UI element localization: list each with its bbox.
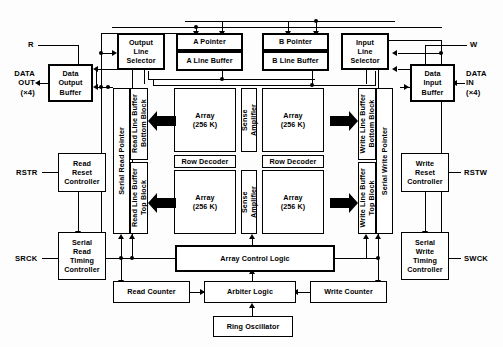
- block-data-input-buffer[interactable]: Data Input Buffer: [410, 64, 455, 102]
- block-sense-amplifier-top-label: Sense Amplifier: [240, 104, 259, 136]
- wire-right-trunk-top: [386, 40, 442, 41]
- block-write-line-buffer-bottom-label: Write Line Buffer Bottom Block: [358, 94, 377, 153]
- block-sense-amplifier-bottom[interactable]: Sense Amplifier: [241, 170, 257, 234]
- block-data-output-buffer[interactable]: Data Output Buffer: [48, 64, 93, 102]
- fat-arrow-read-top: [148, 190, 176, 216]
- block-serial-write-pointer[interactable]: Serial Write Pointer: [376, 88, 393, 234]
- block-ring-oscillator[interactable]: Ring Oscillator: [213, 316, 293, 337]
- wire-a-buffer-return: [148, 79, 315, 80]
- wire-acl-right: [335, 258, 378, 259]
- wire-b-buffer-return: [153, 85, 375, 86]
- wire-rstr: [42, 172, 59, 173]
- fat-arrow-write-top: [330, 190, 358, 216]
- junction-b-pointer-2: [314, 19, 318, 23]
- block-a-line-buffer[interactable]: A Line Buffer: [176, 51, 243, 71]
- wire-r-horizontal: [38, 45, 79, 46]
- junction-a-buffer-return: [220, 77, 224, 81]
- wire-w-vertical: [425, 45, 426, 65]
- block-array-top-right[interactable]: Array (256 K): [262, 88, 324, 152]
- wire-acl-left: [132, 258, 175, 259]
- wire-b-buffer-return-riser: [375, 71, 376, 86]
- block-diagram-canvas: R W DATA OUT (×4) DATA IN (×4) RSTR RSTW…: [0, 0, 503, 347]
- block-array-control-logic[interactable]: Array Control Logic: [175, 245, 335, 272]
- wire-ols-down-2: [144, 70, 145, 84]
- wire-top-rail-inner: [185, 21, 395, 22]
- wire-read-col-riser-1: [121, 238, 122, 258]
- block-a-pointer[interactable]: A Pointer: [176, 33, 243, 51]
- arrowhead-ring-to-arbiter: [249, 303, 255, 308]
- pin-label-swck: SWCK: [464, 254, 488, 263]
- wire-ring-to-arbiter: [252, 307, 253, 316]
- block-row-decoder-right[interactable]: Row Decoder: [262, 155, 324, 168]
- pin-label-r: R: [28, 40, 34, 49]
- arrowhead-ils-feed-a: [392, 50, 397, 56]
- pin-label-srck: SRCK: [15, 254, 37, 263]
- wire-write-col-riser-1: [366, 238, 367, 258]
- arrowhead-write-col-2: [375, 234, 381, 239]
- block-serial-read-timing-controller[interactable]: Serial Read Timing Controller: [58, 232, 106, 280]
- block-sense-amplifier-bottom-label: Sense Amplifier: [240, 186, 259, 218]
- pin-label-rstr: RSTR: [16, 168, 37, 177]
- block-write-counter[interactable]: Write Counter: [310, 281, 387, 303]
- block-serial-write-pointer-label: Serial Write Pointer: [380, 127, 389, 195]
- wire-write-reset-to-timing: [425, 192, 426, 232]
- pin-label-rstw: RSTW: [464, 168, 487, 177]
- wire-read-col-riser-2: [132, 238, 133, 252]
- wire-top-rail-outer: [112, 27, 442, 28]
- block-write-line-buffer-bottom[interactable]: Write Line Buffer Bottom Block: [358, 88, 376, 160]
- block-serial-read-pointer[interactable]: Serial Read Pointer: [113, 88, 130, 234]
- wire-b-buffer-return-riser2: [153, 79, 154, 86]
- wire-a-buffer-return-riser: [148, 71, 149, 80]
- block-sense-amplifier-top[interactable]: Sense Amplifier: [241, 88, 257, 152]
- block-b-line-buffer[interactable]: B Line Buffer: [262, 51, 329, 71]
- block-write-line-buffer-top-label: Write Line Buffer Top Block: [358, 168, 377, 227]
- arrowhead-ols-to-dob-lower: [93, 84, 98, 90]
- fat-arrow-write-bottom: [330, 108, 358, 134]
- wire-srck: [42, 258, 59, 259]
- arrowhead-write-col-1: [363, 234, 369, 239]
- arrowhead-data-out: [35, 80, 40, 86]
- wire-acl-up-sense: [252, 238, 253, 245]
- junction-b-buffer-return: [310, 83, 314, 87]
- block-serial-write-timing-controller[interactable]: Serial Write Timing Controller: [401, 232, 449, 280]
- arrowhead-ils-feed-b: [392, 66, 397, 72]
- block-b-pointer[interactable]: B Pointer: [262, 33, 329, 51]
- block-serial-read-pointer-label: Serial Read Pointer: [117, 127, 126, 195]
- wire-ols-to-dob-upper: [96, 69, 117, 70]
- arrowhead-read-col-1: [118, 234, 124, 239]
- block-input-line-selector[interactable]: Input Line Selector: [341, 33, 389, 70]
- pin-label-data-out: DATA OUT (×4): [2, 69, 35, 97]
- wire-w-horizontal: [425, 45, 467, 46]
- block-array-bottom-left[interactable]: Array (256 K): [174, 170, 236, 234]
- block-write-reset-controller[interactable]: Write Reset Controller: [401, 153, 449, 192]
- wire-r-vertical: [78, 45, 79, 65]
- block-read-reset-controller[interactable]: Read Reset Controller: [58, 153, 106, 192]
- block-output-line-selector[interactable]: Output Line Selector: [117, 33, 165, 70]
- pin-label-data-in: DATA IN (×4): [466, 69, 487, 97]
- wire-readcounter-drop: [121, 258, 122, 281]
- wire-write-col-riser-2: [378, 238, 379, 252]
- wire-writecounter-drop: [378, 258, 379, 281]
- block-array-top-left[interactable]: Array (256 K): [174, 88, 236, 152]
- block-row-decoder-left[interactable]: Row Decoder: [174, 155, 236, 168]
- pin-label-w: W: [470, 40, 477, 49]
- junction-a-pointer-1: [194, 25, 198, 29]
- junction-ils-feed-a: [439, 51, 443, 55]
- block-read-line-buffer-top[interactable]: Read Line Buffer Top Block: [130, 162, 148, 234]
- block-read-line-buffer-top-label: Read Line Buffer Top Block: [130, 168, 149, 227]
- wire-ils-feed-a: [398, 53, 441, 54]
- wire-writecounter-to-arbiter: [296, 292, 310, 293]
- block-arbiter-logic[interactable]: Arbiter Logic: [204, 281, 296, 303]
- block-read-counter[interactable]: Read Counter: [113, 281, 190, 303]
- block-array-bottom-right[interactable]: Array (256 K): [262, 170, 324, 234]
- wire-left-trunk: [101, 33, 102, 259]
- junction-left-trunk-dob: [99, 85, 103, 89]
- fat-arrow-read-bottom: [148, 108, 176, 134]
- junction-ols-feed-a: [99, 51, 103, 55]
- arrowhead-dib-feed: [404, 84, 409, 90]
- block-write-line-buffer-top[interactable]: Write Line Buffer Top Block: [358, 162, 376, 234]
- block-read-line-buffer-bottom[interactable]: Read Line Buffer Bottom Block: [130, 88, 148, 160]
- arrowhead-acl-up-sense: [249, 234, 255, 239]
- wire-ils-down-2: [366, 70, 367, 84]
- arrowhead-read-col-2: [129, 234, 135, 239]
